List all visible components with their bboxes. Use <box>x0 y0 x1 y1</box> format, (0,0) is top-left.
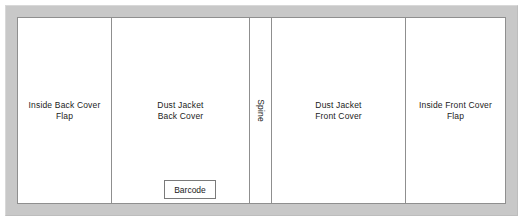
panel-inside-front-cover-flap: Inside Front Cover Flap <box>406 18 505 203</box>
panel-label-spine: Spine <box>255 99 266 122</box>
panel-label-inside-back-cover-flap: Inside Back Cover Flap <box>25 100 105 122</box>
dust-jacket-panel-row: Inside Back Cover Flap Dust Jacket Back … <box>17 17 506 204</box>
barcode-box: Barcode <box>164 180 216 199</box>
panel-dust-jacket-back-cover: Dust Jacket Back Cover Barcode <box>112 18 250 203</box>
panel-label-dust-jacket-front-cover: Dust Jacket Front Cover <box>311 100 366 122</box>
dust-jacket-diagram: Inside Back Cover Flap Dust Jacket Back … <box>0 0 523 223</box>
panel-label-dust-jacket-back-cover: Dust Jacket Back Cover <box>153 100 207 122</box>
panel-spine: Spine <box>250 18 272 203</box>
panel-label-inside-front-cover-flap: Inside Front Cover Flap <box>415 100 496 122</box>
panel-dust-jacket-front-cover: Dust Jacket Front Cover <box>272 18 406 203</box>
barcode-label: Barcode <box>174 185 206 195</box>
panel-inside-back-cover-flap: Inside Back Cover Flap <box>18 18 112 203</box>
